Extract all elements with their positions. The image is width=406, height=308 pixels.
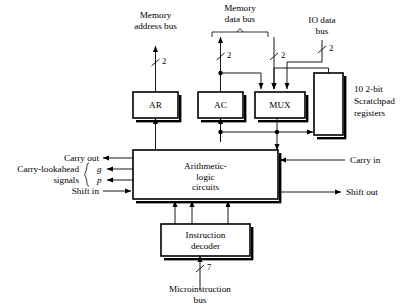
block-alu-label-line2: logic	[196, 172, 214, 182]
signals-label: signals	[53, 175, 79, 185]
junction-mux-bottom	[275, 130, 279, 134]
shift-out-label: Shift out	[346, 187, 378, 197]
signal-p-label: p	[96, 175, 102, 185]
io-data-bus-label-line1: IO data	[308, 15, 335, 25]
memory-data-bus-bracket	[212, 32, 268, 37]
junction-ac-top	[218, 71, 222, 75]
block-mux-label: MUX	[269, 100, 291, 110]
block-scratchpad-registers[interactable]	[314, 73, 343, 135]
block-alu-label-line3: circuits	[192, 182, 219, 192]
memory-address-bus-label-line1: Memory	[140, 10, 172, 20]
carry-in-label: Carry in	[350, 155, 381, 165]
memory-data-bus-bracket-tick	[237, 29, 243, 33]
block-decoder-label-line1: Instruction	[186, 230, 226, 240]
shift-in-label: Shift in	[72, 186, 100, 196]
memory-address-bus-label-line2: address bus	[134, 21, 177, 31]
block-ac-label: AC	[214, 100, 227, 110]
carry-lookahead-brace	[85, 163, 90, 186]
carry-lookahead-label: Carry-lookahead	[17, 164, 79, 174]
signal-g-label: g	[97, 164, 102, 174]
microinstruction-bus-label-line1: Microinstruction	[169, 284, 231, 294]
microinstruction-bus-width: 7	[207, 262, 212, 272]
memory-address-bus-width: 2	[162, 56, 166, 66]
memory-data-bus-label-line2: data bus	[225, 14, 256, 24]
scratchpad-label-line2: Scratchpad	[354, 96, 395, 106]
block-ar-label: AR	[149, 100, 163, 110]
io-data-bus-label-line2: bus	[316, 26, 329, 36]
memory-data-bus-label-line1: Memory	[224, 3, 256, 13]
wire-ac-to-mux-input-1	[221, 73, 262, 89]
block-instruction-decoder[interactable]	[161, 224, 250, 256]
carry-out-label: Carry out	[64, 153, 99, 163]
memory-data-bus-mux-width: 2	[281, 50, 285, 60]
diagram-canvas: AR AC MUX Arithmetic- logic circuits Ins…	[0, 0, 406, 308]
io-data-bus-width: 2	[329, 43, 333, 53]
scratchpad-label-line1: 10 2-bit	[354, 84, 383, 94]
scratchpad-label-line3: registers	[354, 108, 386, 118]
memory-data-bus-ac-width: 2	[227, 50, 231, 60]
microinstruction-bus-label-line2: bus	[194, 295, 207, 305]
block-decoder-label-line2: decoder	[191, 241, 220, 251]
alu-block-diagram: AR AC MUX Arithmetic- logic circuits Ins…	[0, 0, 406, 308]
block-alu-label-line1: Arithmetic-	[184, 161, 227, 171]
